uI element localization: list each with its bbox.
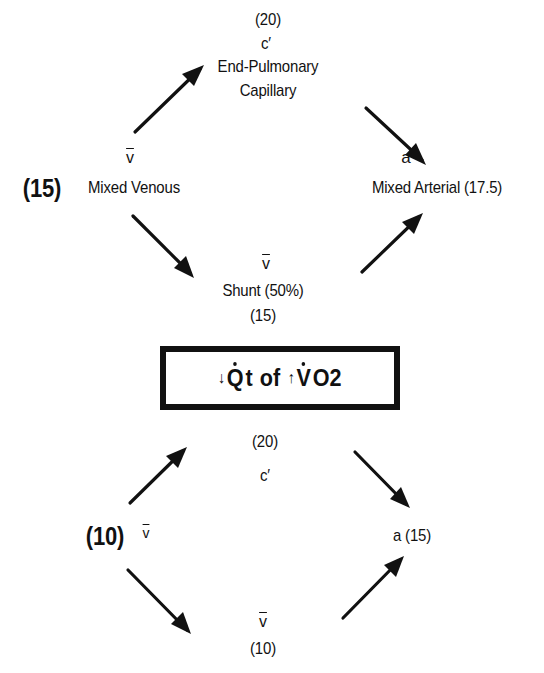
- title-box-text: ↓ Qt of ↑ VO2: [218, 364, 342, 392]
- q-dot: Q: [227, 364, 244, 392]
- arrow-down-icon: ↓: [218, 369, 225, 387]
- arrow-up-icon: ↑: [288, 369, 295, 387]
- mixed-arterial-label: Mixed Arterial (17.5): [363, 178, 511, 198]
- mixed-venous-symbol: v: [126, 148, 134, 168]
- vo2-suffix: O2: [313, 364, 342, 392]
- of-word: of: [260, 364, 280, 392]
- qt-suffix: t: [246, 364, 253, 392]
- bottom-shunt-value: (10): [248, 639, 277, 659]
- shunt-value: (15): [248, 306, 277, 326]
- bottom-capillary-symbol: c′: [259, 466, 270, 486]
- shunt-symbol: v: [262, 254, 270, 274]
- capillary-label-line2: Capillary: [236, 81, 300, 101]
- v-dot: V: [297, 364, 311, 392]
- capillary-value: (20): [253, 10, 282, 30]
- mixed-arterial-symbol: a: [401, 148, 410, 168]
- title-box: ↓ Qt of ↑ VO2: [160, 346, 400, 410]
- mixed-venous-label: Mixed Venous: [82, 178, 186, 198]
- bottom-shunt-symbol: v: [259, 612, 267, 632]
- bottom-venous-symbol: v: [143, 525, 150, 541]
- bottom-arterial-label: a (15): [390, 526, 433, 546]
- capillary-symbol: c′: [260, 34, 271, 54]
- bottom-capillary-value: (20): [250, 432, 279, 452]
- mixed-venous-value: (15): [20, 174, 64, 203]
- shunt-label: Shunt (50%): [217, 281, 309, 301]
- capillary-label-line1: End-Pulmonary: [211, 57, 326, 77]
- bottom-venous-value: (10): [83, 522, 127, 551]
